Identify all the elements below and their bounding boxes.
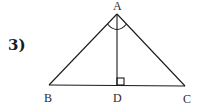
segment-ab	[49, 14, 117, 85]
triangle-diagram: A B D C	[0, 0, 197, 110]
segment-ac	[117, 14, 185, 86]
angle-arc-left	[108, 24, 118, 30]
label-a: A	[113, 0, 122, 13]
label-d: D	[113, 91, 122, 105]
label-c: C	[183, 92, 191, 106]
label-b: B	[44, 91, 52, 105]
angle-arc-right	[117, 24, 127, 30]
right-angle-mark	[117, 78, 124, 85]
